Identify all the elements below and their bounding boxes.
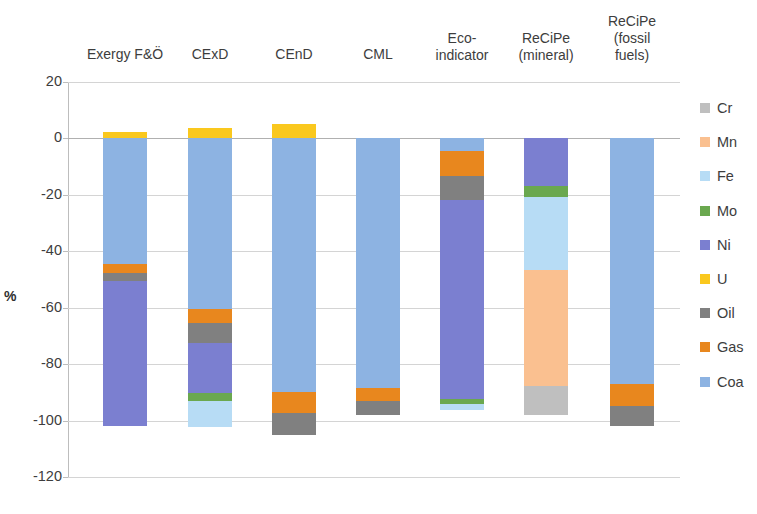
legend-swatch-icon [700, 240, 710, 250]
legend-item[interactable]: Oil [700, 305, 735, 321]
y-axis-tick-label: -80 [4, 356, 62, 370]
y-axis-tick [63, 195, 68, 196]
bar-segment [610, 384, 654, 407]
legend-item[interactable]: Ni [700, 237, 731, 253]
column-header: CEnD [249, 46, 339, 63]
bar-segment [272, 124, 316, 138]
bar-column [356, 82, 400, 477]
bar-segment [440, 200, 484, 400]
legend-swatch-icon [700, 206, 710, 216]
legend-swatch-icon [700, 274, 710, 284]
bar-segment [188, 401, 232, 427]
legend-item[interactable]: Mo [700, 203, 737, 219]
y-axis-tick [63, 477, 68, 478]
y-axis-tick [63, 82, 68, 83]
legend-label: Gas [717, 339, 744, 355]
legend-swatch-icon [700, 137, 710, 147]
bar-segment [440, 404, 484, 410]
y-axis-tick [63, 138, 68, 139]
legend-item[interactable]: Fe [700, 168, 734, 184]
bar-segment [356, 138, 400, 387]
bar-segment [188, 138, 232, 309]
legend-item[interactable]: Cr [700, 100, 732, 116]
legend-label: Coa [717, 374, 744, 390]
legend-item[interactable]: Mn [700, 134, 737, 150]
bar-segment [188, 323, 232, 343]
legend-item[interactable]: Gas [700, 339, 744, 355]
bar-segment [524, 138, 568, 186]
bar-segment [440, 176, 484, 200]
column-header: ReCiPe (fossil fuels) [587, 13, 677, 64]
bar-segment [356, 388, 400, 401]
legend-swatch-icon [700, 377, 710, 387]
column-header: CML [333, 46, 423, 63]
y-axis-tick [63, 308, 68, 309]
bar-column [440, 82, 484, 477]
legend-label: Ni [717, 237, 731, 253]
y-axis-tick-label: 20 [4, 74, 62, 88]
bar-segment [610, 138, 654, 383]
legend-swatch-icon [700, 171, 710, 181]
gridline [68, 477, 680, 478]
y-axis-title: % [4, 288, 16, 304]
legend-label: Oil [717, 305, 735, 321]
y-axis-tick [63, 421, 68, 422]
legend-label: U [717, 271, 727, 287]
column-header: CExD [165, 46, 255, 63]
bar-segment [524, 197, 568, 270]
bar-column [610, 82, 654, 477]
bar-segment [272, 413, 316, 435]
y-axis-line [68, 82, 69, 477]
y-axis-labels: 200-20-40-60-80-100-120 [0, 0, 62, 514]
y-axis-tick-label: -100 [4, 413, 62, 427]
bar-segment [188, 343, 232, 393]
legend-swatch-icon [700, 342, 710, 352]
y-axis-tick-label: -20 [4, 187, 62, 201]
y-axis-tick-label: -120 [4, 469, 62, 483]
bar-segment [188, 393, 232, 401]
y-axis-tick-label: -40 [4, 243, 62, 257]
bar-segment [524, 386, 568, 415]
y-axis-tick [63, 364, 68, 365]
bar-segment [103, 273, 147, 281]
bar-segment [524, 270, 568, 386]
y-axis-tick-label: 0 [4, 130, 62, 144]
legend-label: Mn [717, 134, 737, 150]
legend-label: Mo [717, 203, 737, 219]
column-header: ReCiPe (mineral) [501, 30, 591, 64]
plot-area [68, 82, 680, 477]
bar-segment [440, 151, 484, 176]
bar-column [524, 82, 568, 477]
bar-segment [610, 406, 654, 426]
bar-segment [103, 264, 147, 273]
legend-swatch-icon [700, 103, 710, 113]
y-axis-tick [63, 251, 68, 252]
bar-segment [524, 186, 568, 197]
legend-item[interactable]: Coa [700, 374, 744, 390]
legend-swatch-icon [700, 308, 710, 318]
bar-column [103, 82, 147, 477]
bar-segment [440, 138, 484, 150]
bar-segment [188, 128, 232, 138]
bar-column [188, 82, 232, 477]
column-header: Exergy F&Ö [80, 46, 170, 63]
bar-segment [103, 281, 147, 426]
bar-column [272, 82, 316, 477]
column-header: Eco- indicator [417, 30, 507, 64]
chart-container: 200-20-40-60-80-100-120 % Exergy F&ÖCExD… [0, 0, 757, 514]
legend-item[interactable]: U [700, 271, 727, 287]
bar-segment [103, 138, 147, 264]
bar-segment [272, 138, 316, 391]
bar-segment [188, 309, 232, 323]
legend-label: Fe [717, 168, 734, 184]
bar-segment [356, 401, 400, 415]
legend-label: Cr [717, 100, 732, 116]
bar-segment [272, 392, 316, 413]
